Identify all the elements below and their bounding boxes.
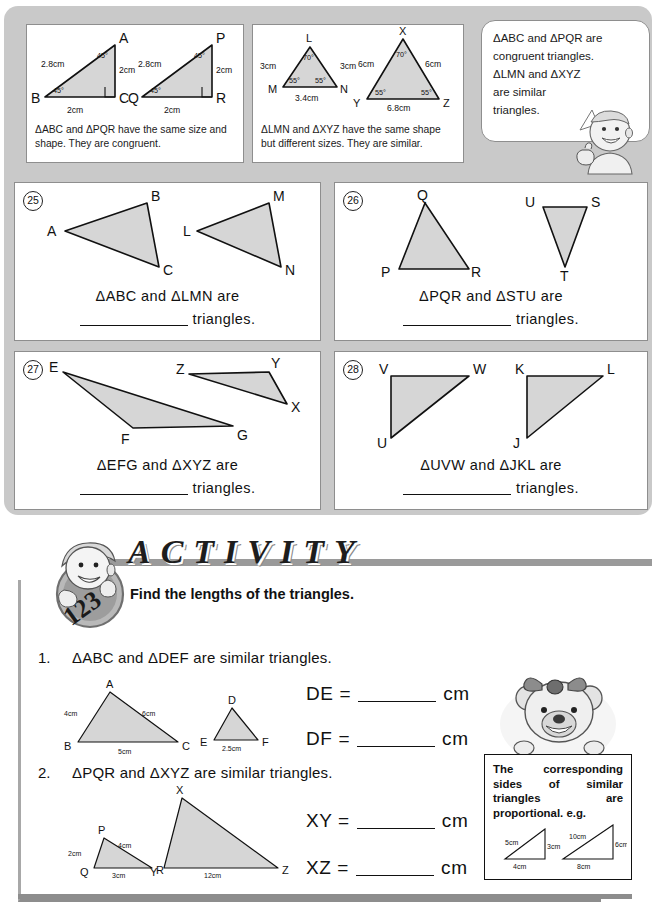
activity-item-2-answer-xy: XY =cm (306, 810, 468, 832)
question-28-figure: V W U K L J (361, 358, 641, 450)
vertex-label-R: R (471, 264, 481, 280)
question-card-28: 28 V W U K L J ΔUVW and ΔJKL are triangl… (334, 351, 648, 510)
answer-blank-df[interactable] (357, 732, 435, 747)
bubble-line-4: are similar (493, 83, 643, 101)
example-card-congruent: A B C 2.8cm 2cm 2cm 45° 45° P Q R 2.8cm … (26, 24, 244, 163)
bubble-line-3: ΔLMN and ΔXYZ (493, 65, 643, 83)
answer-label-de: DE = (306, 683, 351, 704)
question-28-prompt: ΔUVW and ΔJKL are (335, 457, 647, 473)
vertex-label-F: F (262, 736, 269, 748)
side-label-bc: 5cm (118, 748, 131, 755)
vertex-label-S: S (591, 194, 600, 210)
side-label-ab: 4cm (64, 710, 77, 717)
note-small-side-vert: 3cm (547, 843, 560, 850)
vertex-label-T: T (560, 268, 569, 281)
side-label-ac: 6cm (142, 710, 155, 717)
vertex-label-Y: Y (271, 356, 281, 371)
boy-mascot-icon (564, 106, 648, 176)
vertex-label-P: P (216, 30, 225, 46)
angle-label-a: 45° (97, 51, 108, 60)
activity-item-1-statement: ΔABC and ΔDEF are similar triangles. (72, 649, 332, 666)
vertex-label-A: A (106, 678, 114, 690)
similar-triangles-figure: L M N 3cm 3cm 3.4cm 70° 55° 55° X Y Z 6c… (253, 25, 461, 120)
angle-label-n: 55° (315, 76, 326, 85)
concept-panel: A B C 2.8cm 2cm 2cm 45° 45° P Q R 2.8cm … (4, 6, 652, 515)
bubble-line-2: congruent triangles. (493, 47, 643, 65)
answer-blank-de[interactable] (358, 687, 436, 702)
answer-blank-xz[interactable] (356, 861, 434, 876)
side-label-qr: 2cm (164, 105, 180, 115)
question-card-25: 25 A B C L M N ΔABC and ΔLMN are triangl… (14, 182, 321, 341)
vertex-label-Q: Q (417, 189, 428, 203)
angle-label-b: 45° (53, 86, 64, 95)
angle-label-q: 45° (150, 86, 161, 95)
question-28-suffix: triangles. (516, 480, 579, 496)
side-label-yz: 6.8cm (387, 103, 410, 113)
activity-item-2-figure: P Q R 2cm 4cm 3cm X Y Z 12cm (42, 782, 312, 882)
note-big-side-hyp: 10cm (569, 833, 586, 840)
answer-blank[interactable] (80, 312, 188, 326)
side-label-pr: 4cm (118, 842, 131, 849)
vertex-label-W: W (473, 361, 487, 377)
answer-unit-xy: cm (442, 810, 469, 831)
activity-item-2-answer-xz: XZ =cm (306, 857, 468, 879)
example-caption-similar: ΔLMN and ΔXYZ have the same shape but di… (261, 123, 457, 151)
activity-item-2-number: 2. (38, 764, 51, 781)
vertex-label-M: M (268, 83, 277, 95)
side-label-ab: 2.8cm (41, 59, 64, 69)
answer-blank[interactable] (403, 312, 511, 326)
angle-label-m: 55° (289, 76, 300, 85)
vertex-label-Z: Z (282, 864, 289, 876)
vertex-label-C: C (182, 740, 190, 752)
boy-with-numbers-icon: 123 (40, 532, 136, 632)
side-label-pr: 2cm (216, 65, 232, 75)
vertex-label-B: B (64, 740, 71, 752)
question-card-26: 26 Q P R U S T ΔPQR and ΔSTU are triangl… (334, 182, 648, 341)
vertex-label-M: M (273, 189, 285, 204)
activity-item-1-number: 1. (38, 649, 51, 666)
angle-label-p: 45° (194, 51, 205, 60)
vertex-label-G: G (237, 427, 248, 443)
vertex-label-X: X (291, 399, 301, 415)
question-26-figure: Q P R U S T (361, 189, 641, 281)
vertex-label-Y: Y (353, 97, 361, 109)
angle-label-z: 55° (421, 88, 432, 97)
vertex-label-P: P (381, 264, 390, 280)
question-card-27: 27 E F G Z Y X ΔEFG and ΔXYZ are triangl… (14, 351, 321, 510)
answer-blank[interactable] (80, 481, 188, 495)
bottom-rule (18, 894, 632, 899)
note-big-side-vert: 6cm (615, 841, 627, 848)
vertex-label-X: X (399, 25, 407, 37)
vertex-label-F: F (121, 431, 130, 447)
vertex-label-L: L (183, 223, 191, 239)
answer-blank-xy[interactable] (357, 814, 435, 829)
note-box: The corresponding sides of similar trian… (484, 754, 632, 880)
activity-instruction: Find the lengths of the triangles. (130, 586, 354, 602)
activity-item-1-answer-de: DE =cm (306, 683, 470, 705)
question-27-figure: E F G Z Y X (37, 356, 319, 448)
side-label-bc: 2cm (67, 105, 83, 115)
question-27-suffix: triangles. (193, 480, 256, 496)
vertex-label-N: N (340, 83, 348, 95)
vertex-label-Q: Q (80, 866, 89, 878)
question-25-prompt: ΔABC and ΔLMN are (15, 288, 320, 304)
vertex-label-D: D (228, 694, 236, 706)
question-27-prompt: ΔEFG and ΔXYZ are (15, 457, 320, 473)
bubble-line-1: ΔABC and ΔPQR are (493, 29, 643, 47)
question-27-answer-line: triangles. (15, 480, 320, 496)
angle-label-x: 70° (396, 50, 407, 59)
question-25-suffix: triangles. (193, 311, 256, 327)
side-label-ef: 2.5cm (222, 745, 241, 752)
vertex-label-Z: Z (443, 97, 450, 109)
side-label-xz: 6cm (425, 59, 441, 69)
answer-unit-df: cm (442, 728, 469, 749)
note-big-side-base: 8cm (577, 863, 590, 870)
side-label-pq: 2cm (68, 850, 81, 857)
vertex-label-B: B (31, 90, 40, 106)
answer-label-df: DF = (306, 728, 350, 749)
answer-blank[interactable] (403, 481, 511, 495)
side-label-qr: 3cm (112, 872, 125, 879)
vertex-label-Q: Q (128, 90, 139, 106)
side-label-xy: 6cm (358, 59, 374, 69)
vertex-label-J: J (513, 435, 520, 450)
